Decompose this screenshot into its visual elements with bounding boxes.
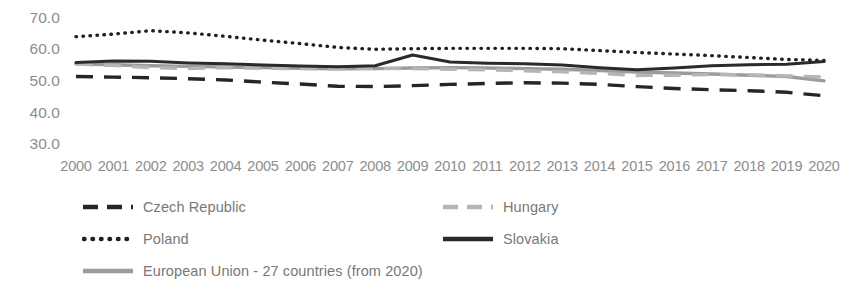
x-axis-tick-label: 2000: [60, 158, 91, 174]
legend-item-poland[interactable]: Poland: [82, 228, 189, 250]
legend-label: Slovakia: [503, 231, 559, 247]
series-line: [76, 31, 824, 61]
chart-legend: Czech Republic Hungary Poland: [72, 196, 772, 292]
legend-item-hungary[interactable]: Hungary: [442, 196, 559, 218]
legend-label: Czech Republic: [143, 199, 246, 215]
legend-label: Poland: [143, 231, 189, 247]
x-axis: 2000200120022003200420052006200720082009…: [72, 158, 828, 182]
x-axis-tick-label: 2013: [546, 158, 577, 174]
x-axis-tick-label: 2006: [285, 158, 316, 174]
x-axis-tick-label: 2011: [472, 158, 502, 174]
x-axis-tick-label: 2017: [696, 158, 727, 174]
x-axis-tick-label: 2004: [210, 158, 241, 174]
legend-item-slovakia[interactable]: Slovakia: [442, 228, 559, 250]
x-axis-tick-label: 2005: [247, 158, 278, 174]
y-axis-tick-label: 60.0: [29, 40, 60, 58]
solid-gray-line-swatch: [82, 264, 134, 278]
line-chart: 70.0 60.0 50.0 40.0 30.0 200020012002200…: [0, 0, 850, 297]
x-axis-tick-label: 2020: [808, 158, 839, 174]
legend-item-european-union-27-countries[interactable]: European Union - 27 countries (from 2020…: [82, 260, 423, 282]
x-axis-tick-label: 2010: [434, 158, 465, 174]
legend-item-czech-republic[interactable]: Czech Republic: [82, 196, 246, 218]
y-axis-tick-label: 70.0: [29, 9, 60, 27]
x-axis-tick-label: 2012: [509, 158, 540, 174]
x-axis-tick-label: 2015: [621, 158, 652, 174]
x-axis-tick-label: 2018: [733, 158, 764, 174]
dashed-light-gray-line-swatch: [442, 200, 494, 214]
x-axis-tick-label: 2008: [359, 158, 390, 174]
x-axis-tick-label: 2007: [322, 158, 353, 174]
x-axis-tick-label: 2009: [397, 158, 428, 174]
x-axis-tick-label: 2001: [98, 158, 129, 174]
dotted-dark-line-swatch: [82, 232, 134, 246]
legend-label: European Union - 27 countries (from 2020…: [143, 263, 423, 279]
legend-label: Hungary: [503, 199, 559, 215]
y-axis-tick-label: 50.0: [29, 72, 60, 90]
y-axis: 70.0 60.0 50.0 40.0 30.0: [0, 0, 68, 160]
dashed-dark-line-swatch: [82, 200, 134, 214]
solid-dark-line-swatch: [442, 232, 494, 246]
series-line: [76, 76, 824, 95]
y-axis-tick-label: 30.0: [29, 135, 60, 153]
series-canvas: [72, 8, 828, 152]
y-axis-tick-label: 40.0: [29, 104, 60, 122]
x-axis-tick-label: 2002: [135, 158, 166, 174]
x-axis-tick-label: 2019: [771, 158, 802, 174]
x-axis-tick-label: 2016: [659, 158, 690, 174]
x-axis-tick-label: 2003: [172, 158, 203, 174]
plot-area: [72, 8, 828, 152]
x-axis-tick-label: 2014: [584, 158, 615, 174]
